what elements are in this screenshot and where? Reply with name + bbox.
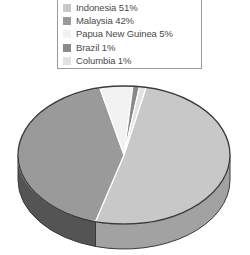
legend-label-indonesia: Indonesia 51% [76, 3, 138, 13]
legend-swatch-papua-new-guinea [63, 30, 71, 38]
legend-item-columbia[interactable]: Columbia 1% [63, 55, 197, 68]
legend-label-columbia: Columbia 1% [76, 56, 131, 66]
legend-label-malaysia: Malaysia 42% [76, 16, 134, 26]
legend-item-indonesia[interactable]: Indonesia 51% [63, 1, 197, 14]
legend-label-papua-new-guinea: Papua New Guinea 5% [76, 29, 173, 39]
pie-top-faces [18, 86, 230, 224]
legend-swatch-indonesia [63, 4, 71, 12]
chart-legend: Indonesia 51% Malaysia 42% Papua New Gui… [57, 0, 202, 69]
legend-swatch-columbia [63, 57, 71, 65]
legend-label-brazil: Brazil 1% [76, 43, 115, 53]
legend-item-malaysia[interactable]: Malaysia 42% [63, 14, 197, 27]
legend-swatch-malaysia [63, 17, 71, 25]
legend-item-papua-new-guinea[interactable]: Papua New Guinea 5% [63, 28, 197, 41]
pie-chart [0, 78, 250, 255]
chart-root: Indonesia 51% Malaysia 42% Papua New Gui… [0, 0, 250, 255]
legend-item-brazil[interactable]: Brazil 1% [63, 41, 197, 54]
pie-chart-svg [0, 78, 250, 255]
legend-swatch-brazil [63, 44, 71, 52]
